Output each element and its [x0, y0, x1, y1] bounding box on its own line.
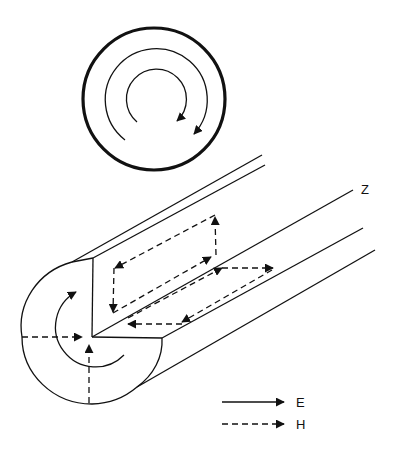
cut-top-inner-edge	[93, 165, 265, 258]
legend	[222, 402, 284, 424]
outer-bottom-edge	[137, 250, 375, 387]
legend-h-label: H	[296, 418, 305, 431]
cut-horizontal-edge	[92, 337, 162, 338]
z-axis-line	[92, 190, 353, 337]
legend-e-label: E	[296, 396, 305, 409]
cross-section	[83, 28, 225, 170]
cut-vertical-edge	[92, 258, 93, 337]
z-axis-label: Z	[361, 183, 369, 196]
outer-top-edge	[72, 155, 262, 262]
h-field-arc-outer	[105, 49, 207, 140]
cut-bottom-inner-edge	[162, 228, 363, 338]
coax-diagram	[0, 0, 393, 459]
h-field-arc-inner	[126, 69, 186, 122]
coax-cutaway	[21, 155, 375, 404]
